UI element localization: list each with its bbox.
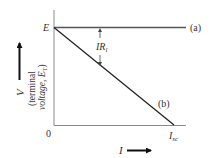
isc-label: Isc: [168, 130, 179, 143]
y-axis-text-line2: voltage, ET): [37, 64, 48, 110]
y-axis-label: V (terminal voltage, ET): [14, 43, 48, 110]
e-label: E: [42, 22, 49, 33]
voltage-drop-indicator: IRl: [95, 30, 107, 64]
voltage-current-diagram: (a) (b) E 0 Isc IRl I V: [0, 0, 214, 158]
x-axis-symbol: I: [118, 144, 124, 156]
line-b: [54, 28, 174, 126]
line-b-label: (b): [158, 98, 170, 110]
y-axis-symbol: V: [14, 88, 26, 96]
origin-label: 0: [46, 128, 51, 139]
drop-label: IRl: [95, 41, 107, 54]
line-a-label: (a): [190, 22, 201, 34]
x-axis-label: I: [118, 144, 151, 156]
